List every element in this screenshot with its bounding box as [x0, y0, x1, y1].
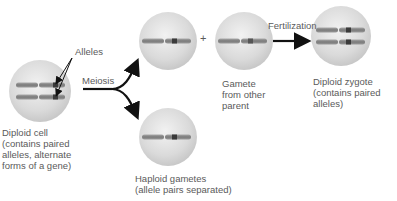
- haploid-gametes: [139, 108, 197, 166]
- caption-line: Diploid cell: [2, 127, 71, 138]
- gamete-other-parent: [215, 12, 273, 70]
- caption-line: (contains paired: [313, 87, 381, 98]
- caption-line: (allele pairs separated): [135, 184, 232, 195]
- plus-sign: +: [200, 33, 206, 44]
- haploid-gametes-caption: Haploid gametes (allele pairs separated): [135, 173, 232, 195]
- caption-line: Diploid zygote: [313, 76, 381, 87]
- diploid-zygote: [311, 6, 371, 66]
- meiosis-label: Meiosis: [82, 75, 114, 86]
- caption-line: Gamete: [222, 78, 265, 89]
- meiosis-arrow: [83, 64, 136, 114]
- caption-line: (contains paired: [2, 138, 71, 149]
- caption-line: alleles, alternate: [2, 149, 71, 160]
- caption-line: Haploid gametes: [135, 173, 232, 184]
- fertilization-label: Fertilization: [268, 20, 317, 31]
- alleles-label: Alleles: [75, 46, 103, 57]
- caption-line: forms of a gene): [2, 160, 71, 171]
- caption-line: alleles): [313, 98, 381, 109]
- diploid-cell-caption: Diploid cell (contains paired alleles, a…: [2, 127, 71, 171]
- caption-line: from other: [222, 89, 265, 100]
- gamete-other-parent-caption: Gamete from other parent: [222, 78, 265, 111]
- caption-line: parent: [222, 100, 265, 111]
- gamete-top: [139, 12, 197, 70]
- diploid-cell: [9, 58, 72, 122]
- diploid-zygote-caption: Diploid zygote (contains paired alleles): [313, 76, 381, 109]
